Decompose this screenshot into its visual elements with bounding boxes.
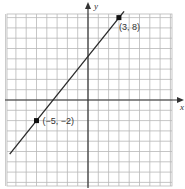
point-marker (116, 15, 121, 20)
y-axis-arrow-icon (85, 2, 91, 9)
point-label: (−5, −2) (43, 116, 75, 126)
coordinate-plane: x y (−5, −2) (3, 8) (0, 0, 185, 189)
point-marker (34, 118, 39, 123)
data-line (10, 11, 124, 154)
data-points: (−5, −2) (3, 8) (34, 15, 140, 126)
x-axis-label: x (179, 102, 184, 112)
point-label: (3, 8) (119, 22, 140, 32)
axes: x y (5, 1, 184, 188)
y-axis-label: y (93, 1, 98, 11)
